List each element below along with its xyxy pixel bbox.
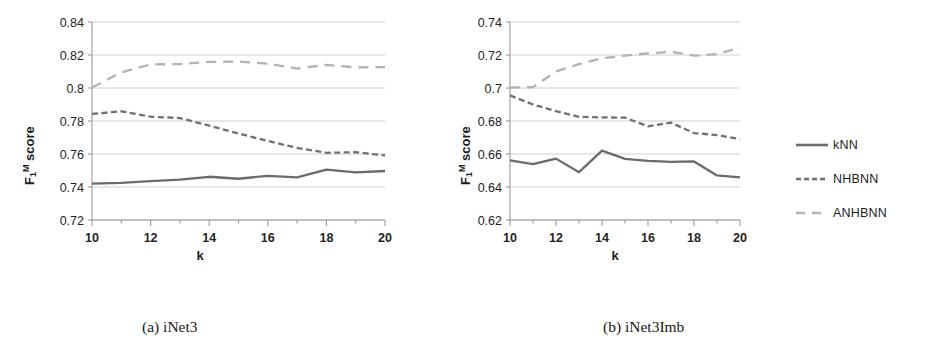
y-axis-label-a-text: F1M score bbox=[22, 126, 37, 185]
y-tick-label: 0.64 bbox=[478, 181, 502, 195]
legend-swatch-nhbnn-icon bbox=[795, 173, 829, 185]
caption-b: (b) iNet3Imb bbox=[603, 318, 684, 336]
series-line-knn bbox=[510, 151, 740, 178]
chart-panel-a: F1M score 0.720.740.760.780.80.820.84101… bbox=[0, 0, 440, 300]
y-tick-label: 0.62 bbox=[478, 214, 502, 228]
legend-item-nhbnn[interactable]: NHBNN bbox=[795, 162, 925, 196]
y-tick-label: 0.7 bbox=[485, 82, 502, 96]
x-tick-label: 10 bbox=[85, 231, 99, 245]
legend-label-knn: kNN bbox=[833, 138, 858, 152]
legend-label-nhbnn: NHBNN bbox=[833, 172, 878, 186]
y-tick-label: 0.74 bbox=[60, 181, 84, 195]
x-tick-label: 18 bbox=[319, 231, 333, 245]
x-tick-label: 12 bbox=[549, 231, 563, 245]
legend-item-anhbnn[interactable]: ANHBNN bbox=[795, 196, 925, 230]
series-line-anhbnn bbox=[510, 48, 740, 88]
x-tick-label: 18 bbox=[687, 231, 701, 245]
y-tick-label: 0.76 bbox=[60, 148, 84, 162]
y-tick-label: 0.74 bbox=[478, 16, 502, 30]
y-axis-label-b-text: F1M score bbox=[458, 126, 473, 185]
x-tick-label: 12 bbox=[144, 231, 158, 245]
series-line-knn bbox=[92, 170, 385, 184]
y-axis-label-a: F1M score bbox=[22, 126, 37, 185]
legend-label-anhbnn: ANHBNN bbox=[833, 206, 887, 220]
figure-container: F1M score 0.720.740.760.780.80.820.84101… bbox=[0, 0, 927, 361]
y-axis-label-b: F1M score bbox=[458, 126, 473, 185]
x-tick-label: 20 bbox=[733, 231, 747, 245]
series-line-nhbnn bbox=[510, 95, 740, 139]
plot-area-a: 0.720.740.760.780.80.820.84101214161820 bbox=[0, 0, 440, 275]
x-tick-label: 10 bbox=[503, 231, 517, 245]
legend-swatch-knn-icon bbox=[795, 139, 829, 151]
legend-item-knn[interactable]: kNN bbox=[795, 128, 925, 162]
x-tick-label: 16 bbox=[641, 231, 655, 245]
y-tick-label: 0.72 bbox=[478, 49, 502, 63]
x-tick-label: 20 bbox=[378, 231, 392, 245]
y-tick-label: 0.78 bbox=[60, 115, 84, 129]
y-tick-label: 0.66 bbox=[478, 148, 502, 162]
legend-swatch-anhbnn-icon bbox=[795, 207, 829, 219]
y-tick-label: 0.82 bbox=[60, 49, 84, 63]
series-line-nhbnn bbox=[92, 111, 385, 155]
caption-a: (a) iNet3 bbox=[142, 318, 198, 336]
legend: kNN NHBNN ANHBNN bbox=[795, 128, 925, 230]
y-tick-label: 0.72 bbox=[60, 214, 84, 228]
y-tick-label: 0.8 bbox=[67, 82, 84, 96]
plot-area-b: 0.620.640.660.680.70.720.74101214161820 bbox=[440, 0, 785, 275]
y-tick-label: 0.84 bbox=[60, 16, 84, 30]
series-line-anhbnn bbox=[92, 62, 385, 88]
x-axis-label-b: k bbox=[595, 248, 635, 263]
y-tick-label: 0.68 bbox=[478, 115, 502, 129]
x-axis-label-a: k bbox=[180, 248, 220, 263]
x-tick-label: 14 bbox=[595, 231, 609, 245]
chart-panel-b: F1M score 0.620.640.660.680.70.720.74101… bbox=[440, 0, 785, 300]
x-tick-label: 16 bbox=[261, 231, 275, 245]
x-tick-label: 14 bbox=[202, 231, 216, 245]
